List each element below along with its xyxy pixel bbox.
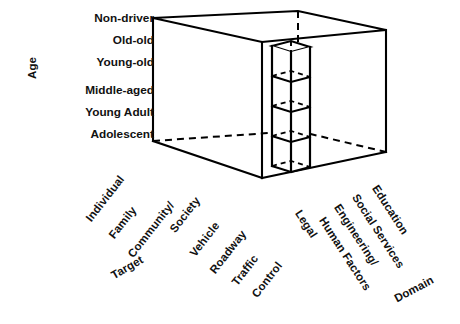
age-category-middle-aged: Middle-aged [85,83,154,97]
framework-cube-figure: Age Non-driver Old-old Young-old Middle-… [0,0,460,324]
age-category-young-old: Young-old [97,55,154,69]
cube-solid-edges [153,11,386,178]
axis-title-age: Age [26,48,38,88]
age-category-adolescent: Adolescent [90,127,154,141]
highlighted-column [272,41,310,172]
age-category-young-adult: Young Adult [85,105,154,119]
age-category-old-old: Old-old [113,33,154,47]
cube-hidden-edges [153,11,386,152]
age-category-non-driver: Non-driver [94,11,154,25]
cube-line-art [0,0,460,324]
